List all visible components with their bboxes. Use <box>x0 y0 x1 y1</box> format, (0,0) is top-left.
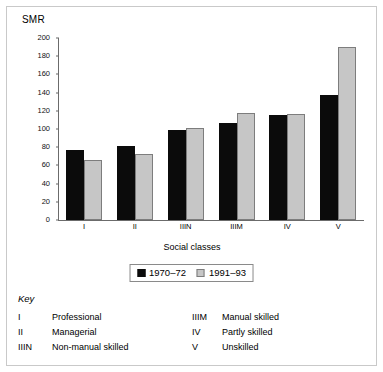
bar <box>287 114 305 220</box>
bar <box>338 47 356 220</box>
key-description: Managerial <box>52 325 192 340</box>
key-row: IIIMManual skilled <box>192 310 366 325</box>
y-tick-label: 100 <box>37 125 50 133</box>
bar <box>135 154 153 220</box>
y-tick-label: 140 <box>37 89 50 97</box>
bar-group <box>59 38 110 220</box>
key-code: V <box>192 340 222 355</box>
x-tick-label: IIIM <box>230 222 243 231</box>
bar <box>66 150 84 220</box>
key-description: Partly skilled <box>222 325 366 340</box>
key-row: IIManagerial <box>18 325 192 340</box>
key-row: IVPartly skilled <box>192 325 366 340</box>
key-description: Non-manual skilled <box>52 340 192 355</box>
legend-label: 1970–72 <box>149 267 186 278</box>
x-tick-label: II <box>133 222 137 231</box>
plot-area: 020406080100120140160180200 IIIIIINIIIMI… <box>20 38 364 238</box>
bars-container <box>59 38 364 220</box>
y-tick-label: 20 <box>42 198 50 206</box>
y-axis-ticks: 020406080100120140160180200 <box>20 38 56 220</box>
bar <box>168 130 186 220</box>
bar <box>269 115 287 220</box>
x-tick-label: V <box>336 222 341 231</box>
x-tick-label: I <box>83 222 85 231</box>
key-table: IProfessionalIIManagerialIIINNon-manual … <box>18 310 366 355</box>
y-tick-label: 60 <box>42 162 50 170</box>
x-axis-tick-labels: IIIIIINIIIMIVV <box>59 222 364 236</box>
key-column-right: IIIMManual skilledIVPartly skilledVUnski… <box>192 310 366 355</box>
x-tick-label: IV <box>284 222 291 231</box>
x-axis-line <box>58 220 364 221</box>
key-code: IV <box>192 325 222 340</box>
bar <box>186 128 204 220</box>
key-description: Unskilled <box>222 340 366 355</box>
bar <box>84 160 102 220</box>
y-tick-label: 0 <box>46 216 50 224</box>
key-row: IIINNon-manual skilled <box>18 340 192 355</box>
y-tick-label: 80 <box>42 143 50 151</box>
y-tick-label: 160 <box>37 71 50 79</box>
key-row: IProfessional <box>18 310 192 325</box>
key-heading: Key <box>18 293 34 304</box>
key-row: VUnskilled <box>192 340 366 355</box>
bar <box>219 123 237 220</box>
bar-group <box>161 38 212 220</box>
bar-group <box>110 38 161 220</box>
key-code: IIIM <box>192 310 222 325</box>
bar-group <box>262 38 313 220</box>
y-axis-label: SMR <box>22 14 45 25</box>
light-square-icon <box>197 269 205 277</box>
chart-legend: 1970–721991–93 <box>129 264 254 282</box>
legend-item: 1991–93 <box>197 267 246 278</box>
x-tick-label: IIIN <box>180 222 192 231</box>
legend-item: 1970–72 <box>137 267 186 278</box>
chart-page: SMR 020406080100120140160180200 IIIIIINI… <box>0 0 383 372</box>
key-description: Professional <box>52 310 192 325</box>
bar <box>320 95 338 220</box>
bar-group <box>212 38 263 220</box>
key-code: I <box>18 310 52 325</box>
bar <box>117 146 135 220</box>
y-tick-label: 180 <box>37 52 50 60</box>
y-tick-label: 200 <box>37 34 50 42</box>
dark-square-icon <box>137 269 145 277</box>
key-description: Manual skilled <box>222 310 366 325</box>
key-code: IIIN <box>18 340 52 355</box>
key-column-left: IProfessionalIIManagerialIIINNon-manual … <box>18 310 192 355</box>
bar <box>237 113 255 220</box>
legend-label: 1991–93 <box>209 267 246 278</box>
bar-group <box>313 38 364 220</box>
x-axis-title: Social classes <box>20 242 364 252</box>
key-code: II <box>18 325 52 340</box>
y-tick-label: 120 <box>37 107 50 115</box>
y-tick-label: 40 <box>42 180 50 188</box>
